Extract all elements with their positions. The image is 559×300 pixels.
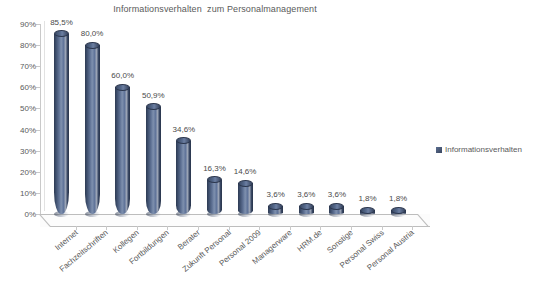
bar-series: 85,5%80,0%60,0%50,9%34,6%16,3%14,6%3,6%3… [40,24,430,227]
bar-value-label: 1,8% [358,194,376,203]
y-axis-tick-label: 10% [20,188,36,197]
chart-title: Informationsverhalten zum Personalmanage… [0,4,430,14]
y-axis-tick-label: 0% [24,210,36,219]
bar[interactable]: 34,6% [176,141,191,214]
chart-container: Informationsverhalten zum Personalmanage… [0,0,559,300]
bar-top-cap [238,180,253,187]
bar-body [176,141,191,214]
bar-body [54,34,69,215]
y-axis-tick-label: 70% [20,62,36,71]
y-axis-tick-label: 30% [20,146,36,155]
bar-value-label: 14,6% [234,167,257,176]
bar[interactable]: 85,5% [54,34,69,215]
bar-value-label: 3,6% [328,190,346,199]
bar-value-label: 60,0% [111,71,134,80]
bar-body [115,87,130,214]
y-axis-tick-label: 90% [20,20,36,29]
bar-top-cap [85,42,100,49]
y-axis-tick-label: 20% [20,167,36,176]
legend: Informationsverhalten [436,145,522,154]
bar-top-cap [54,30,69,37]
bar-value-label: 16,3% [203,164,226,173]
bar[interactable]: 16,3% [207,180,222,214]
x-axis-category-labels: InternetFachzeitschriftenKollegenFortbil… [40,228,440,300]
category-label-text: Berater [176,228,202,252]
bar[interactable]: 60,0% [115,87,130,214]
bar-value-label: 50,9% [142,91,165,100]
bar-value-label: 85,5% [50,18,73,27]
y-axis-tick-label: 60% [20,83,36,92]
bar-top-cap [146,103,161,110]
bar-value-label: 80,0% [81,29,104,38]
bar-value-label: 1,8% [389,194,407,203]
bar-body [207,180,222,214]
bar-value-label: 34,6% [173,125,196,134]
bar-body [85,45,100,214]
plot-area: 0%10%20%30%40%50%60%70%80%90% 85,5%80,0%… [40,24,430,214]
category-label-text: Sonstige [325,228,355,255]
legend-swatch-icon [436,147,442,153]
bar-top-cap [115,84,130,91]
y-axis-tick-label: 80% [20,41,36,50]
category-label-text: Internet [53,228,80,252]
y-axis-tick-label: 50% [20,104,36,113]
legend-label: Informationsverhalten [445,145,522,154]
y-axis-tick-label: 40% [20,125,36,134]
category-label-text: HRM.de [296,228,324,254]
bar[interactable]: 80,0% [85,45,100,214]
